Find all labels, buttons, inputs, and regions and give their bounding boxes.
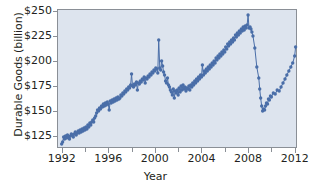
x-minor-tick-mark [132,148,133,152]
x-tick-label: 2000 [135,152,175,165]
x-minor-tick-mark [271,148,272,152]
chart-figure: Durable Goods (billion) $125$150$175$200… [0,0,311,186]
x-tick-label: 2004 [181,152,221,165]
x-tick-label: 2012 [275,152,311,165]
x-tick-mark [201,148,202,153]
x-axis-ticks: 199219962000200420082012 [0,0,311,186]
x-tick-mark [108,148,109,153]
x-tick-mark [295,148,296,153]
x-tick-label: 1992 [42,152,82,165]
x-tick-mark [155,148,156,153]
x-minor-tick-mark [225,148,226,152]
x-minor-tick-mark [178,148,179,152]
x-tick-mark [62,148,63,153]
x-axis-label: Year [0,170,311,183]
x-tick-mark [248,148,249,153]
x-minor-tick-mark [85,148,86,152]
x-tick-label: 2008 [228,152,268,165]
x-tick-label: 1996 [88,152,128,165]
